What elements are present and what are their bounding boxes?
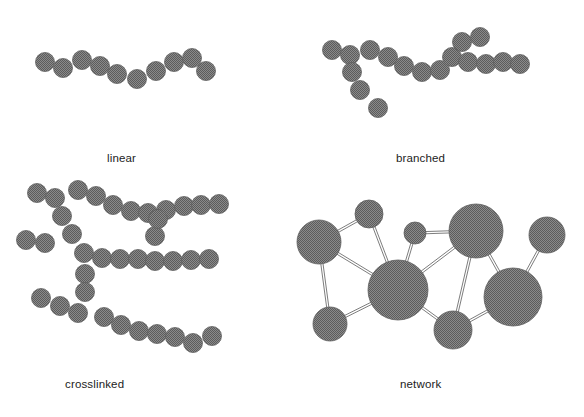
network-bond	[338, 221, 358, 232]
monomer-bead	[51, 297, 70, 316]
monomer-bead	[36, 234, 55, 253]
monomer-bead	[182, 251, 201, 270]
network-node	[297, 220, 341, 264]
monomer-bead	[477, 55, 496, 74]
monomer-bead	[323, 41, 342, 60]
monomer-bead	[164, 252, 183, 271]
monomer-bead	[453, 33, 472, 52]
monomer-bead	[197, 62, 216, 81]
monomer-bead	[129, 250, 148, 269]
caption-crosslinked: crosslinked	[65, 378, 124, 390]
network-bond	[425, 231, 450, 232]
panel-linear-graphic	[36, 49, 216, 89]
caption-branched: branched	[396, 152, 445, 164]
monomer-bead	[17, 231, 36, 250]
monomer-bead	[343, 63, 362, 82]
monomer-bead	[459, 53, 478, 72]
network-node	[484, 268, 542, 326]
monomer-bead	[146, 227, 165, 246]
monomer-bead	[369, 99, 388, 118]
network-node	[404, 222, 426, 244]
network-bond	[456, 256, 469, 312]
monomer-bead	[203, 327, 222, 346]
monomer-bead	[122, 202, 141, 221]
network-node	[313, 307, 347, 341]
monomer-bead	[53, 207, 72, 226]
network-bond	[527, 250, 539, 273]
monomer-bead	[166, 328, 185, 347]
monomer-bead	[93, 249, 112, 268]
network-bond	[373, 227, 387, 264]
monomer-bead	[192, 196, 211, 215]
monomer-bead	[351, 81, 370, 100]
polymer-diagram-canvas	[0, 0, 584, 417]
monomer-bead	[149, 210, 168, 229]
network-bond	[345, 304, 373, 318]
monomer-bead	[200, 250, 219, 269]
network-bond	[422, 248, 456, 274]
network-bond	[336, 254, 372, 276]
network-bond	[488, 254, 499, 273]
network-bond	[425, 233, 450, 234]
network-node	[529, 217, 565, 253]
monomer-bead	[148, 325, 167, 344]
network-bond	[525, 249, 537, 272]
monomer-bead	[73, 51, 92, 70]
monomer-bead	[413, 63, 432, 82]
network-bond	[337, 219, 357, 230]
network-bond	[344, 302, 372, 316]
network-bond	[458, 257, 471, 313]
monomer-bead	[511, 55, 530, 74]
network-bond	[338, 252, 374, 274]
monomer-bead	[146, 252, 165, 271]
monomer-bead	[471, 28, 490, 47]
network-node	[449, 204, 503, 258]
monomer-bead	[75, 244, 94, 263]
monomer-bead	[76, 265, 95, 284]
network-node	[355, 200, 383, 228]
panel-network-nodes	[297, 200, 565, 349]
network-node	[368, 260, 428, 320]
polymer-structures-figure: linear branched crosslinked network	[0, 0, 584, 417]
monomer-bead	[104, 196, 123, 215]
monomer-bead	[54, 59, 73, 78]
monomer-bead	[87, 187, 106, 206]
monomer-bead	[210, 195, 229, 214]
caption-linear: linear	[107, 152, 136, 164]
panel-crosslinked-graphic	[17, 181, 229, 353]
monomer-bead	[63, 225, 82, 244]
monomer-bead	[69, 181, 88, 200]
monomer-bead	[76, 283, 95, 302]
monomer-bead	[147, 62, 166, 81]
monomer-bead	[46, 189, 65, 208]
caption-network: network	[400, 378, 441, 390]
network-node	[434, 311, 472, 349]
monomer-bead	[108, 65, 127, 84]
network-bond	[490, 253, 501, 272]
monomer-bead	[184, 334, 203, 353]
monomer-bead	[341, 46, 360, 65]
monomer-bead	[112, 316, 131, 335]
panel-branched-graphic	[323, 28, 530, 118]
monomer-bead	[361, 41, 380, 60]
network-bond	[468, 310, 488, 321]
network-bond	[422, 306, 439, 318]
network-bond	[420, 246, 454, 272]
network-bond	[375, 226, 389, 263]
monomer-bead	[111, 250, 130, 269]
monomer-bead	[130, 322, 149, 341]
monomer-bead	[69, 304, 88, 323]
monomer-bead	[165, 53, 184, 72]
network-bond	[469, 311, 489, 322]
monomer-bead	[32, 289, 51, 308]
monomer-bead	[28, 184, 47, 203]
monomer-bead	[36, 53, 55, 72]
monomer-bead	[91, 57, 110, 76]
monomer-bead	[128, 70, 147, 89]
monomer-bead	[395, 57, 414, 76]
monomer-bead	[175, 197, 194, 216]
monomer-bead	[95, 308, 114, 327]
monomer-bead	[494, 53, 513, 72]
network-bond	[421, 308, 438, 320]
